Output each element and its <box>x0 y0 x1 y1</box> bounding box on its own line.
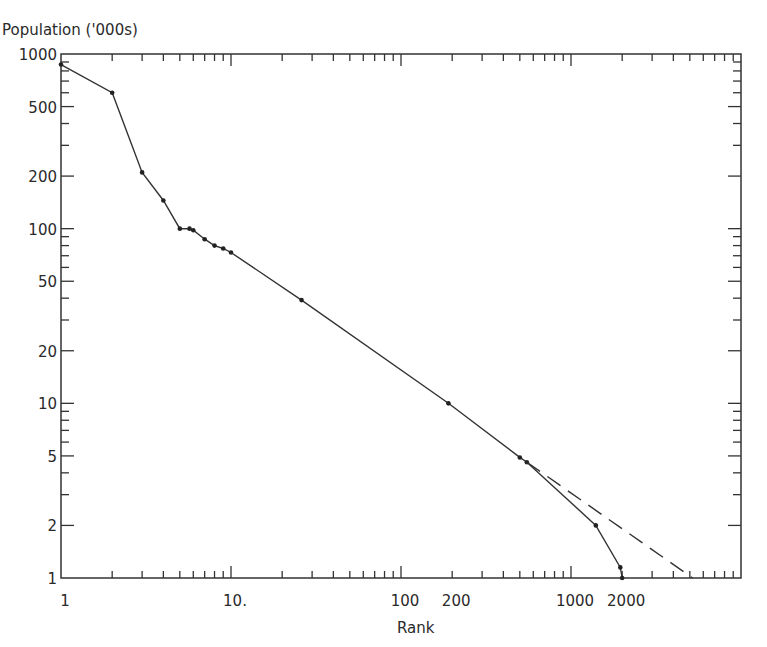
y-tick-label: 100 <box>28 221 57 239</box>
y-tick-label: 1000 <box>19 46 57 64</box>
series-line-dashed <box>527 462 693 578</box>
y-tick-label: 2 <box>47 517 57 535</box>
axis-ticks <box>61 54 741 578</box>
rank-size-chart: Population ('000s) Rank 1000500200100502… <box>0 0 767 647</box>
y-tick-label: 200 <box>28 168 57 186</box>
x-tick-labels: 110.10020010002000 <box>60 592 645 610</box>
data-point <box>202 237 207 242</box>
y-tick-label: 10 <box>38 395 57 413</box>
data-series <box>59 62 693 580</box>
data-point <box>161 198 166 203</box>
data-point <box>446 401 451 406</box>
y-tick-label: 20 <box>38 343 57 361</box>
data-point <box>618 565 623 570</box>
data-point <box>140 170 145 175</box>
plot-frame <box>61 54 741 578</box>
data-point <box>594 523 599 528</box>
y-tick-label: 5 <box>47 448 57 466</box>
y-tick-label: 500 <box>28 99 57 117</box>
x-axis-title: Rank <box>397 619 435 637</box>
y-tick-labels: 1000500200100502010521 <box>19 46 57 588</box>
data-point <box>518 455 523 460</box>
data-point <box>221 246 226 251</box>
y-axis-title: Population ('000s) <box>2 21 138 39</box>
data-point <box>110 90 115 95</box>
x-tick-label: 2000 <box>607 592 645 610</box>
y-tick-label: 50 <box>38 273 57 291</box>
data-point <box>620 576 625 581</box>
x-tick-label: 200 <box>442 592 471 610</box>
y-tick-label: 1 <box>47 570 57 588</box>
x-tick-label: 1 <box>60 592 70 610</box>
x-tick-label: 100 <box>391 592 420 610</box>
data-point <box>212 243 217 248</box>
data-point <box>178 226 183 231</box>
x-tick-label: 1000 <box>556 592 594 610</box>
x-tick-label: 10. <box>223 592 247 610</box>
series-line-solid <box>61 65 622 578</box>
data-point <box>299 298 304 303</box>
data-point <box>191 228 196 233</box>
data-point <box>59 62 64 67</box>
data-point <box>229 250 234 255</box>
